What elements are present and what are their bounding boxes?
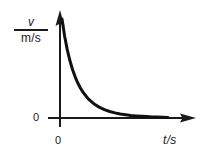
y-axis-unit: m/s — [14, 31, 48, 44]
y-axis-zero-tick-label: 0 — [33, 112, 39, 123]
x-axis-label: t/s — [163, 134, 177, 146]
decay-curve — [62, 19, 168, 117]
x-axis-zero-tick-label: 0 — [55, 135, 61, 146]
y-axis-label: v m/s — [14, 16, 48, 44]
velocity-time-graph-figure: v m/s t/s 0 0 — [0, 0, 214, 158]
y-axis-quantity-symbol: v — [14, 16, 48, 29]
